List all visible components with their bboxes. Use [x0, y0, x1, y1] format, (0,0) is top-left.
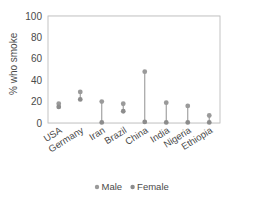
- y-tick-label: 0: [36, 118, 42, 129]
- data-point-female: [121, 109, 126, 114]
- y-tick-label: 60: [31, 53, 43, 64]
- y-tick-label: 40: [31, 75, 43, 86]
- legend-marker-male: [95, 185, 99, 189]
- data-point-male: [142, 69, 147, 74]
- y-axis-title: % who smoke: [8, 32, 19, 95]
- data-point-female: [56, 105, 61, 110]
- legend-label-female: Female: [137, 181, 169, 192]
- chart-canvas: 020406080100 % who smoke USAGermanyIranB…: [0, 0, 256, 217]
- data-point-male: [185, 103, 190, 108]
- y-tick-label: 20: [31, 96, 43, 107]
- data-point-male: [121, 101, 126, 106]
- smoking-rate-chart: 020406080100 % who smoke USAGermanyIranB…: [0, 0, 256, 217]
- data-point-male: [164, 100, 169, 105]
- data-point-male: [207, 113, 212, 118]
- data-point-male: [78, 90, 83, 95]
- y-tick-label: 80: [31, 32, 43, 43]
- legend-marker-female: [130, 185, 134, 189]
- data-point-female: [78, 97, 83, 102]
- plot-area-border: [48, 16, 220, 123]
- y-tick-label: 100: [25, 11, 42, 22]
- legend-label-male: Male: [102, 181, 123, 192]
- data-point-female: [142, 120, 147, 125]
- data-point-male: [99, 99, 104, 104]
